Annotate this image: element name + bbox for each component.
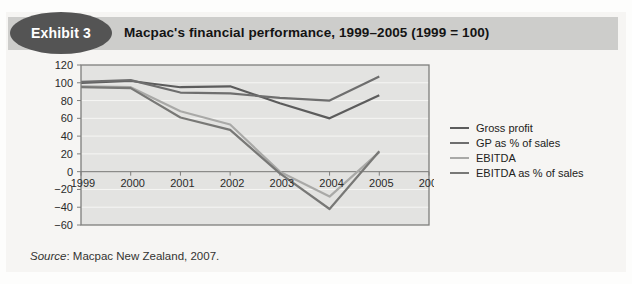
legend-item: Gross profit [450,120,584,135]
svg-text:−40: −40 [54,201,73,213]
line-chart: −60−40−200204060801001201999200020012002… [30,52,434,244]
svg-text:2004: 2004 [319,177,343,189]
legend-label: EBITDA [476,152,516,164]
svg-text:40: 40 [61,130,73,142]
exhibit-title: Macpac's financial performance, 1999–200… [124,25,489,40]
svg-text:60: 60 [61,112,73,124]
legend-item: EBITDA [450,150,584,165]
legend-label: Gross profit [476,122,533,134]
svg-text:2006: 2006 [419,177,434,189]
exhibit-badge: Exhibit 3 [10,12,112,54]
svg-text:80: 80 [61,95,73,107]
legend-line-swatch [450,142,469,144]
source-label: Source [30,250,66,262]
exhibit-badge-label: Exhibit 3 [31,25,91,41]
svg-text:2001: 2001 [170,177,194,189]
legend-line-swatch [450,172,469,174]
svg-text:1999: 1999 [71,177,95,189]
svg-text:100: 100 [55,77,73,89]
svg-text:120: 120 [55,59,73,71]
svg-text:2005: 2005 [369,177,393,189]
svg-text:20: 20 [61,148,73,160]
legend-item: GP as % of sales [450,135,584,150]
legend-label: EBITDA as % of sales [476,167,584,179]
source-text: : Macpac New Zealand, 2007. [66,250,219,262]
legend-item: EBITDA as % of sales [450,165,584,180]
svg-text:2003: 2003 [270,177,294,189]
legend-line-swatch [450,157,469,159]
svg-text:2000: 2000 [120,177,144,189]
svg-text:−60: −60 [54,219,73,231]
source-note: Source: Macpac New Zealand, 2007. [30,250,219,262]
svg-text:2002: 2002 [220,177,244,189]
legend-line-swatch [450,127,469,129]
exhibit-panel: Macpac's financial performance, 1999–200… [6,12,626,272]
legend-label: GP as % of sales [476,137,560,149]
chart-legend: Gross profit GP as % of sales EBITDA EBI… [450,120,584,180]
